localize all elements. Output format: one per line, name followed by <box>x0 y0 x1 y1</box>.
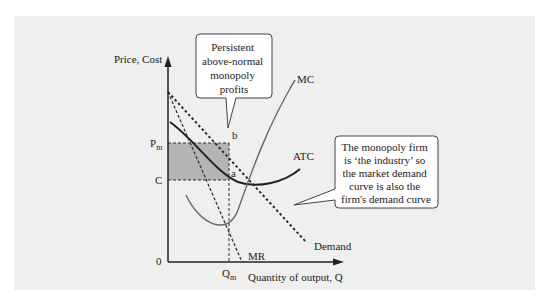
qm-subscript: m <box>230 273 237 282</box>
demand-label: Demand <box>314 240 352 252</box>
y-axis-arrow-icon <box>165 56 172 67</box>
callout-line: the market demand <box>342 167 427 179</box>
quantity-qm-label: Qm <box>222 267 237 282</box>
cost-c-label: C <box>155 174 162 186</box>
callout-line: is ‘the industry’ so <box>344 154 426 166</box>
callout-line: monopoly <box>210 69 255 81</box>
mc-label-leader <box>290 80 295 88</box>
callout-line: curve is also the <box>349 180 420 192</box>
monopoly-diagram: Persistent above-normal monopoly profits… <box>0 0 547 307</box>
origin-label: 0 <box>156 255 162 267</box>
pm-subscript: m <box>156 143 163 152</box>
price-pm-label: Pm <box>150 137 163 152</box>
y-axis-label: Price, Cost <box>114 53 162 65</box>
atc-label: ATC <box>293 150 314 162</box>
qm-letter: Q <box>222 267 230 279</box>
callout-line: above-normal <box>202 55 263 67</box>
x-axis-label: Quantity of output, Q <box>248 271 343 283</box>
callout-line: Persistent <box>211 41 254 53</box>
x-axis-arrow-icon <box>333 259 344 266</box>
callout-demand-text: The monopoly firm is ‘the industry’ so t… <box>341 141 431 205</box>
point-b-label: b <box>232 129 238 141</box>
callout-line: firm's demand curve <box>341 193 431 205</box>
mr-label: MR <box>248 250 266 262</box>
mc-label: MC <box>297 73 314 85</box>
point-a-label: a <box>231 167 236 179</box>
callout-line: The monopoly firm <box>342 141 429 153</box>
callout-line: profits <box>220 83 249 95</box>
